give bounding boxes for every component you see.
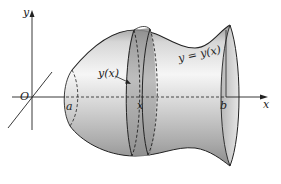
slab-x-label: x bbox=[137, 99, 144, 112]
y-axis-arrow-icon bbox=[30, 10, 35, 17]
slab bbox=[126, 28, 156, 156]
y-axis-label: y bbox=[22, 6, 30, 19]
radius-label: y(x) bbox=[97, 67, 119, 80]
y-axis bbox=[30, 10, 35, 130]
z-axis bbox=[8, 72, 52, 128]
b-label: b bbox=[220, 99, 227, 112]
solid-of-revolution-diagram: y x O a x b y(x) y = y(x) bbox=[0, 0, 281, 184]
a-label: a bbox=[66, 100, 73, 113]
x-axis-label: x bbox=[263, 98, 270, 111]
origin-label: O bbox=[20, 90, 29, 103]
